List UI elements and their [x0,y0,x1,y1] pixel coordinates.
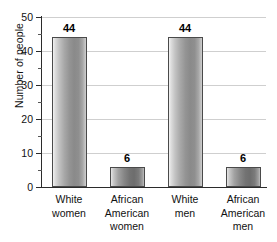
x-axis-category-label: AfricanAmericanwomen [98,193,156,234]
category-label-line: White [56,193,83,205]
y-axis-tick [36,187,42,188]
x-axis-line [41,187,267,188]
category-label-line: American [105,207,149,219]
y-axis-tick-label: 40 [0,46,33,57]
category-label-line: men [233,220,253,232]
category-label-line: men [175,207,195,219]
y-axis-tick-label: 30 [0,80,33,91]
bar [52,37,87,187]
bar-value-label: 6 [223,153,263,164]
category-label-line: women [52,207,86,219]
y-axis-tick-label: 50 [0,12,33,23]
y-axis-tick-label: 10 [0,148,33,159]
bar [110,167,145,187]
category-label-line: African [111,193,144,205]
x-axis-category-label: AfricanAmericanmen [214,193,272,234]
bar [168,37,203,187]
category-label-line: American [221,207,265,219]
y-axis-tick-label: 20 [0,114,33,125]
x-axis-category-label: Whitewomen [40,193,98,220]
category-label-line: women [110,220,144,232]
bar-value-label: 44 [49,23,89,34]
x-axis-category-label: Whitemen [156,193,214,220]
category-label-line: White [172,193,199,205]
bar-chart: Number of people 01020304050 446446 Whit… [0,0,277,242]
bar [226,167,261,187]
bar-value-label: 6 [107,153,147,164]
y-axis-title: Number of people [14,6,25,126]
category-label-line: African [227,193,260,205]
y-axis-tick-label: 0 [0,182,33,193]
bar-value-label: 44 [165,23,205,34]
